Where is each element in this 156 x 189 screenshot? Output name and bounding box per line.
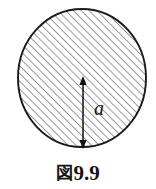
figure-caption: 図9.9	[0, 162, 156, 184]
dimension-label-a: a	[94, 97, 104, 119]
caption-prefix: 図	[56, 163, 73, 183]
caption-number: 9.9	[73, 161, 99, 185]
figure-container: a 図9.9	[0, 0, 156, 189]
circle-body	[18, 9, 146, 147]
